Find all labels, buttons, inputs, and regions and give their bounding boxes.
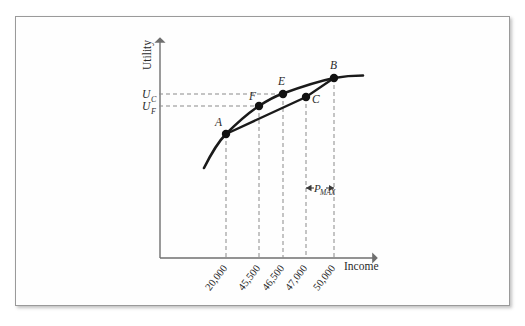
x-tick-label-20000: 20,000 xyxy=(203,263,229,293)
point-label-e: E xyxy=(277,75,285,87)
pmax-label-sub: MAX xyxy=(319,188,336,197)
utility-curve xyxy=(204,76,363,169)
axes-group xyxy=(160,40,375,258)
point-label-a: A xyxy=(214,116,223,128)
point-label-b: B xyxy=(330,59,337,71)
point-label-c: C xyxy=(312,93,320,105)
y-tick-uf-sub: F xyxy=(150,107,156,116)
pmax-annotation: P MAX xyxy=(306,182,336,197)
x-axis-label: Income xyxy=(344,260,378,272)
x-tick-label-50000: 50,000 xyxy=(311,263,337,293)
data-point-c[interactable] xyxy=(302,93,310,101)
x-tick-label-47000: 47,000 xyxy=(283,263,309,293)
data-point-b[interactable] xyxy=(330,74,338,82)
point-label-f: F xyxy=(248,90,257,102)
x-tick-label-45500: 45,500 xyxy=(236,263,262,293)
utility-income-chart: Utility Income U C U F A F E C B P MAX 2… xyxy=(0,0,525,326)
data-point-f[interactable] xyxy=(255,102,263,110)
data-point-a[interactable] xyxy=(222,130,230,138)
y-axis-label: Utility xyxy=(141,40,154,70)
data-point-e[interactable] xyxy=(279,90,287,98)
x-tick-label-46500: 46,500 xyxy=(260,263,286,293)
y-tick-uc-sub: C xyxy=(151,95,157,104)
y-tick-uc-main: U xyxy=(142,88,151,100)
y-tick-uf-main: U xyxy=(142,100,151,112)
